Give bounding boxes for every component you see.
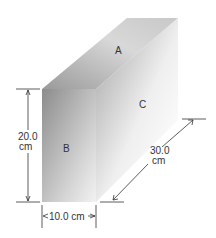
face-label-c: C: [139, 99, 146, 110]
width-value: 10.0 cm: [49, 211, 85, 222]
face-label-a: A: [115, 45, 122, 56]
rectangular-block-diagram: A B C 20.0 cm 10.0 cm 30.0 cm: [0, 0, 216, 238]
face-label-b: B: [63, 143, 70, 154]
depth-unit: cm: [152, 155, 165, 166]
height-unit: cm: [19, 141, 32, 152]
